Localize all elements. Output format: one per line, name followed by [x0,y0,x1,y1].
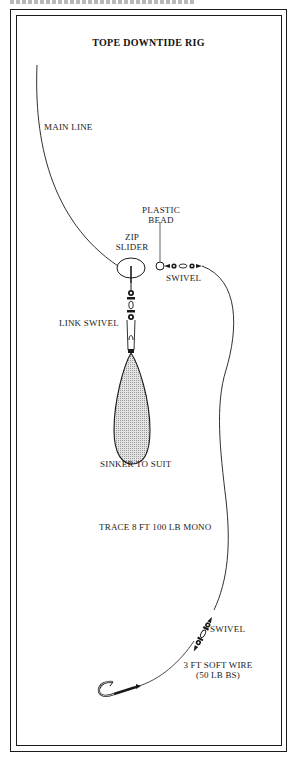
label-soft-wire-1: 3 FT SOFT WIRE [178,660,258,670]
label-trace: TRACE 8 FT 100 LB MONO [99,522,212,532]
label-zip-slider-1: ZIP [112,232,152,242]
trace-line [202,266,234,610]
label-main-line: MAIN LINE [44,122,93,132]
label-soft-wire-2: (50 LB BS) [178,670,258,680]
label-plastic-bead-1: PLASTIC [140,205,182,215]
swivel-top-icon [164,263,202,268]
label-plastic-bead-2: BEAD [140,215,182,225]
hook-icon [99,682,141,696]
main-line [37,65,118,266]
label-link-swivel: LINK SWIVEL [59,318,119,328]
label-swivel-top: SWIVEL [166,273,201,283]
label-zip-slider-2: SLIDER [112,242,152,252]
label-swivel-bottom: SWIVEL [210,624,245,634]
sinker [114,353,150,464]
plastic-bead [156,262,164,270]
link-swivel-icon [127,283,135,353]
rig-diagram [0,0,297,762]
label-sinker: SINKER TO SUIT [100,459,171,469]
swivel-bottom-icon [191,616,215,653]
